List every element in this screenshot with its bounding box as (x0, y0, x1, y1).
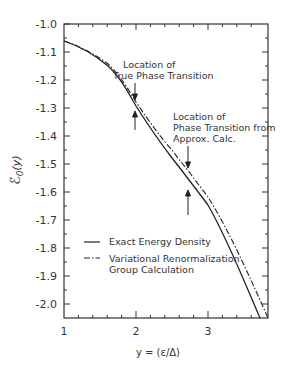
svg-text:-1.4: -1.4 (36, 130, 57, 143)
svg-text:True Phase Transition: True Phase Transition (112, 70, 214, 81)
annotation-true-transition: Location of True Phase Transition (112, 59, 214, 81)
y-tick-labels: -1.0 -1.1 -1.2 -1.3 -1.4 -1.5 -1.6 -1.7 … (36, 18, 57, 311)
variational-rg-curve (64, 41, 268, 318)
x-tick-labels: 1 2 3 (61, 325, 212, 338)
svg-text:Location of: Location of (173, 111, 226, 122)
svg-text:-1.7: -1.7 (36, 214, 57, 227)
exact-energy-curve (64, 41, 260, 318)
svg-text:1: 1 (61, 325, 68, 338)
svg-text:Location of: Location of (123, 59, 176, 70)
legend-variational-label-2: Group Calculation (109, 264, 194, 275)
svg-text:-1.0: -1.0 (36, 18, 57, 31)
svg-text:-1.9: -1.9 (36, 270, 57, 283)
svg-text:-1.2: -1.2 (36, 74, 57, 87)
svg-text:-1.1: -1.1 (36, 46, 57, 59)
svg-text:Approx. Calc.: Approx. Calc. (173, 133, 236, 144)
annotation-approx-transition: Location of Phase Transition from Approx… (173, 111, 275, 144)
svg-text:-1.6: -1.6 (36, 186, 57, 199)
legend-variational-label-1: Variational Renormalization (109, 253, 240, 264)
svg-text:-1.8: -1.8 (36, 242, 57, 255)
legend-exact-label: Exact Energy Density (109, 236, 211, 247)
svg-text:ℰ0(y): ℰ0(y) (7, 155, 25, 184)
svg-text:2: 2 (133, 325, 140, 338)
svg-text:-1.5: -1.5 (36, 158, 57, 171)
x-axis-label: y = (ε/Δ) (136, 347, 180, 358)
svg-text:-1.3: -1.3 (36, 102, 57, 115)
svg-text:-2.0: -2.0 (36, 298, 57, 311)
chart: -1.0 -1.1 -1.2 -1.3 -1.4 -1.5 -1.6 -1.7 … (0, 0, 282, 365)
svg-text:3: 3 (205, 325, 212, 338)
legend: Exact Energy Density Variational Renorma… (84, 236, 240, 275)
svg-text:Phase Transition from: Phase Transition from (173, 122, 275, 133)
y-axis-label: ℰ0(y) (7, 155, 25, 184)
